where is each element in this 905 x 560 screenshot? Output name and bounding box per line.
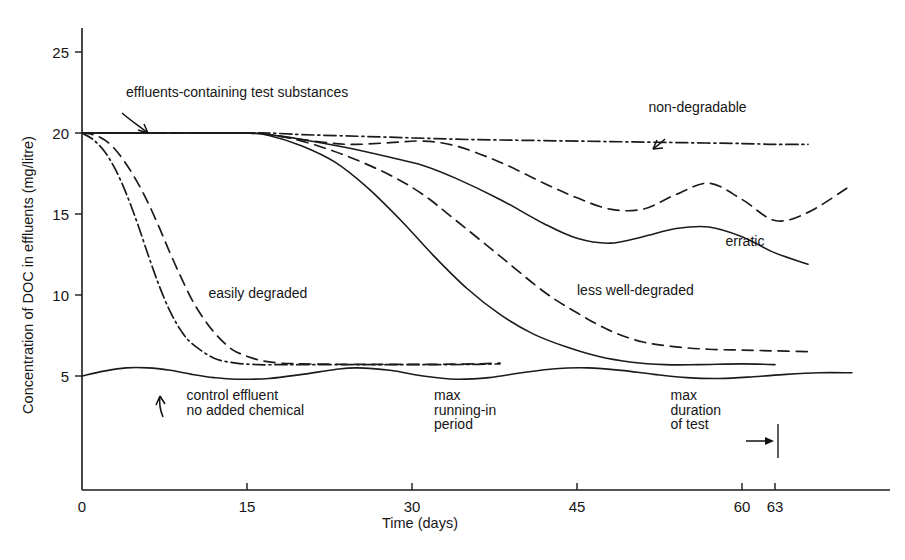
x-tick-label-60: 60 <box>734 498 751 515</box>
x-tick-label-0: 0 <box>78 498 86 515</box>
y-axis-label: Concentration of DOC in effluents (mg/li… <box>20 136 36 414</box>
annotation-control-effluent-line2: no added chemical <box>187 402 305 418</box>
series-erratic-dashed <box>82 133 852 221</box>
annotation-max-duration-line3: of test <box>671 416 709 432</box>
annotation-non-degradable: non-degradable <box>649 99 747 115</box>
y-tick-group: 510152025 <box>52 44 82 385</box>
series-easily-degraded-dash-dot <box>82 133 500 365</box>
leader-effluents-containing <box>122 113 148 133</box>
series-group <box>82 133 852 379</box>
y-tick-label-5: 5 <box>61 368 69 385</box>
y-tick-label-20: 20 <box>52 125 69 142</box>
annotation-effluents-containing-test-substances: effluents-containing test substances <box>126 84 348 100</box>
series-easily-degraded-dashed <box>82 133 500 364</box>
x-tick-label-30: 30 <box>404 498 421 515</box>
annotations-group: effluents-containing test substancesnon-… <box>126 84 764 432</box>
x-axis-label: Time (days) <box>382 515 458 531</box>
x-tick-label-15: 15 <box>239 498 256 515</box>
chart-figure: 510152025 01530456063 effluents-containi… <box>0 0 905 560</box>
y-tick-label-15: 15 <box>52 206 69 223</box>
x-tick-group: 01530456063 <box>78 483 784 515</box>
x-tick-label-45: 45 <box>569 498 586 515</box>
annotation-less-well-degraded: less well-degraded <box>577 282 694 298</box>
series-less-well-degraded <box>82 133 808 352</box>
leader-control-arrowhead <box>156 396 165 405</box>
y-tick-label-10: 10 <box>52 287 69 304</box>
series-erratic-solid <box>82 133 808 264</box>
annotation-easily-degraded: easily degraded <box>209 285 308 301</box>
max-duration-arrow-head <box>765 437 774 445</box>
annotation-erratic: erratic <box>726 233 765 249</box>
series-control-effluent <box>82 368 852 380</box>
doc-concentration-line-chart: 510152025 01530456063 effluents-containi… <box>0 0 905 560</box>
y-tick-label-25: 25 <box>52 44 69 61</box>
annotation-max-running-in-line3: period <box>434 416 473 432</box>
x-tick-label-63: 63 <box>767 498 784 515</box>
